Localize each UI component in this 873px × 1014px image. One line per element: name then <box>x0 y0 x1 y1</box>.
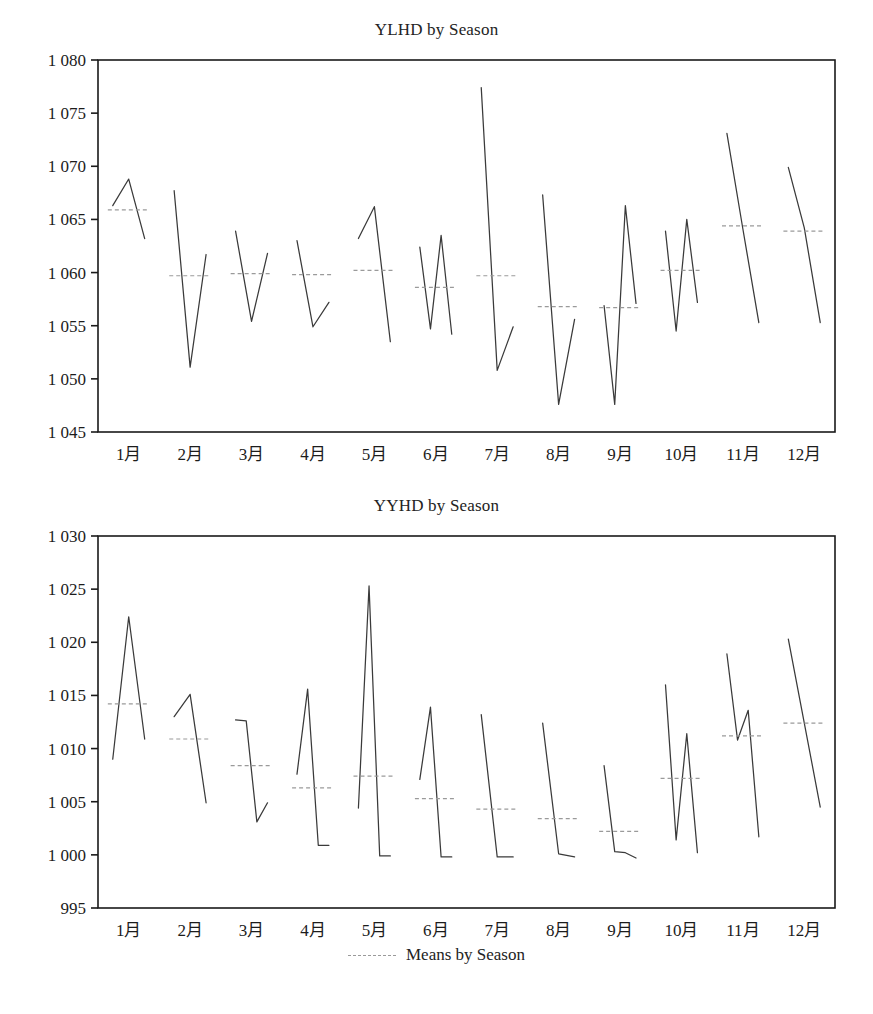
series-segment <box>358 207 390 342</box>
figure-page: YLHD by Season 1 0451 0501 0551 0601 065… <box>0 0 873 1014</box>
chart-panel-yyhd: YYHD by Season 9951 0001 0051 0101 0151 … <box>0 478 873 1014</box>
chart-plot-ylhd: 1 0451 0501 0551 0601 0651 0701 0751 080… <box>0 0 873 490</box>
series-segment <box>236 231 268 321</box>
legend-label-means-by-season: Means by Season <box>406 945 525 965</box>
y-axis-tick-label: 1 010 <box>48 740 86 759</box>
series-segment <box>297 689 329 845</box>
series-segment <box>481 715 513 857</box>
series-segment <box>420 707 452 857</box>
chart-plot-yyhd: 9951 0001 0051 0101 0151 0201 0251 0301月… <box>0 478 873 968</box>
x-axis-category-label: 5月 <box>362 445 388 464</box>
y-axis-tick-label: 1 060 <box>48 264 86 283</box>
series-segment <box>420 235 452 334</box>
y-axis-tick-label: 1 055 <box>48 317 86 336</box>
y-axis-tick-label: 1 075 <box>48 104 86 123</box>
x-axis-category-label: 6月 <box>423 921 449 940</box>
series-segment <box>297 241 329 327</box>
y-axis-tick-label: 1 080 <box>48 51 86 70</box>
plot-frame <box>98 60 835 432</box>
series-segment <box>358 586 390 856</box>
y-axis-tick-label: 1 070 <box>48 157 86 176</box>
x-axis-category-label: 4月 <box>300 445 326 464</box>
y-axis-tick-label: 1 025 <box>48 580 86 599</box>
y-axis-tick-label: 1 015 <box>48 686 86 705</box>
series-segment <box>543 723 575 857</box>
x-axis-category-label: 11月 <box>726 445 759 464</box>
plot-frame <box>98 536 835 908</box>
x-axis-category-label: 1月 <box>116 445 142 464</box>
x-axis-category-label: 4月 <box>300 921 326 940</box>
x-axis-category-label: 2月 <box>177 921 203 940</box>
x-axis-category-label: 12月 <box>787 921 821 940</box>
series-segment <box>665 685 697 853</box>
y-axis-tick-label: 1 005 <box>48 793 86 812</box>
series-segment <box>604 206 636 405</box>
series-segment <box>174 191 206 367</box>
y-axis-tick-label: 1 020 <box>48 633 86 652</box>
y-axis-tick-label: 995 <box>61 899 87 918</box>
x-axis-category-label: 2月 <box>177 445 203 464</box>
series-segment <box>113 179 145 239</box>
x-axis-category-label: 10月 <box>664 921 698 940</box>
y-axis-tick-label: 1 000 <box>48 846 86 865</box>
series-segment <box>604 766 636 858</box>
x-axis-category-label: 12月 <box>787 445 821 464</box>
series-segment <box>788 167 820 322</box>
chart-legend: Means by Season <box>0 940 873 965</box>
series-segment <box>236 720 268 822</box>
x-axis-category-label: 8月 <box>546 445 572 464</box>
y-axis-tick-label: 1 065 <box>48 210 86 229</box>
dashed-line-swatch <box>348 955 396 956</box>
x-axis-category-label: 10月 <box>664 445 698 464</box>
series-segment <box>113 617 145 759</box>
series-segment <box>481 88 513 371</box>
series-segment <box>174 694 206 802</box>
x-axis-category-label: 9月 <box>607 445 633 464</box>
chart-panel-ylhd: YLHD by Season 1 0451 0501 0551 0601 065… <box>0 0 873 490</box>
x-axis-category-label: 7月 <box>484 921 510 940</box>
x-axis-category-label: 7月 <box>484 445 510 464</box>
y-axis-tick-label: 1 050 <box>48 370 86 389</box>
y-axis-tick-label: 1 030 <box>48 527 86 546</box>
x-axis-category-label: 3月 <box>239 445 265 464</box>
x-axis-category-label: 9月 <box>607 921 633 940</box>
x-axis-category-label: 8月 <box>546 921 572 940</box>
x-axis-category-label: 1月 <box>116 921 142 940</box>
y-axis-tick-label: 1 045 <box>48 423 86 442</box>
series-segment <box>543 195 575 404</box>
series-segment <box>665 219 697 331</box>
x-axis-category-label: 6月 <box>423 445 449 464</box>
series-segment <box>727 654 759 837</box>
x-axis-category-label: 3月 <box>239 921 265 940</box>
x-axis-category-label: 11月 <box>726 921 759 940</box>
series-segment <box>727 133 759 322</box>
x-axis-category-label: 5月 <box>362 921 388 940</box>
